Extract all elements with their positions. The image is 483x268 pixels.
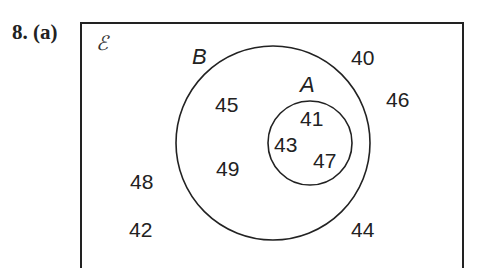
- element-45: 45: [215, 93, 238, 116]
- venn-diagram: ℰ B A 41 43 47 45 49 40 46 48 42 44: [0, 0, 483, 268]
- set-a-label: A: [298, 72, 315, 97]
- element-40: 40: [351, 46, 374, 69]
- element-49: 49: [216, 157, 239, 180]
- element-43: 43: [274, 133, 297, 156]
- element-46: 46: [386, 88, 409, 111]
- universal-set-symbol: ℰ: [96, 31, 110, 55]
- element-42: 42: [129, 218, 152, 241]
- element-41: 41: [300, 107, 323, 130]
- set-b-circle: [176, 46, 370, 240]
- element-44: 44: [351, 218, 375, 241]
- set-b-label: B: [192, 44, 207, 69]
- element-48: 48: [130, 170, 153, 193]
- element-47: 47: [313, 149, 336, 172]
